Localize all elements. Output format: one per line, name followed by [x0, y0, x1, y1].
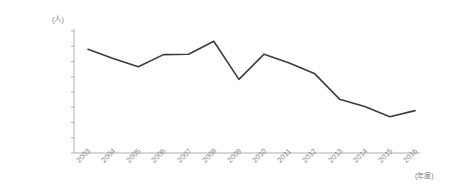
x-axis-tick-label: 2006 [150, 147, 167, 164]
x-axis-tick-labels: 2003200420052006200720082009201020112012… [0, 0, 456, 190]
x-axis-tick-label: 2010 [251, 147, 268, 164]
x-axis-tick-label: 2003 [75, 147, 92, 164]
x-axis-tick-label: 2016 [402, 147, 419, 164]
x-axis-tick-label: 2008 [201, 147, 218, 164]
x-axis-tick-label: 2004 [100, 147, 117, 164]
x-axis-unit-label: (年度) [415, 170, 434, 180]
x-axis-tick-label: 2015 [377, 147, 394, 164]
line-chart: (人) 32.000.00031.000.00030.000.00029.000… [0, 0, 456, 190]
x-axis-tick-label: 2011 [276, 148, 293, 165]
x-axis-tick-label: 2013 [327, 147, 344, 164]
x-axis-tick-label: 2014 [352, 147, 369, 164]
x-axis-tick-label: 2012 [301, 147, 318, 164]
x-axis-tick-label: 2005 [125, 147, 142, 164]
x-axis-tick-label: 2009 [226, 147, 243, 164]
x-axis-tick-label: 2007 [176, 147, 193, 164]
